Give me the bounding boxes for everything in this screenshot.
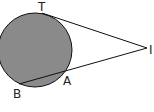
circle xyxy=(0,13,72,87)
point-label-T: T xyxy=(37,0,46,14)
point-label-I: I xyxy=(149,43,153,57)
point-label-B: B xyxy=(13,87,21,101)
geometry-diagram: T I A B xyxy=(0,0,154,112)
point-label-A: A xyxy=(63,74,72,88)
